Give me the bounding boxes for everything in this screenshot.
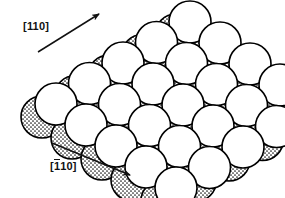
bracket-close: ] (45, 20, 49, 32)
bracket-close: ] (73, 160, 77, 172)
direction-label-1bar10: [110] (50, 160, 77, 172)
miller-index-1-overbar: 1 (54, 160, 60, 172)
direction-label-110: [110] (23, 20, 49, 32)
figure-canvas: [110] [110] (0, 0, 285, 198)
